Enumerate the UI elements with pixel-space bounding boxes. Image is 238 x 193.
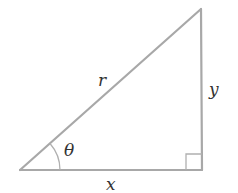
angle-arc-theta <box>50 144 60 171</box>
side-hypotenuse-r <box>20 9 201 170</box>
label-x: x <box>106 174 116 193</box>
right-triangle-diagram: r y θ x <box>0 0 238 193</box>
label-theta: θ <box>64 140 74 160</box>
right-angle-marker <box>186 154 202 170</box>
side-opposite-y <box>201 9 202 170</box>
label-r: r <box>98 70 107 90</box>
label-y: y <box>208 79 219 99</box>
